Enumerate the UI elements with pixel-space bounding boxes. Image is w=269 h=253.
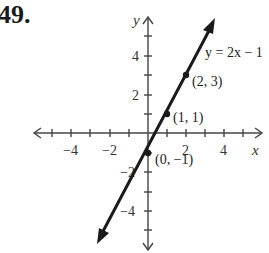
line-top-arrow-icon: [203, 18, 215, 34]
coordinate-plane: −4 −2 2 4 x 4 2 −2 −4 y y = 2x − 1 (2, 3…: [0, 0, 269, 253]
x-tick-label-m4: −4: [63, 143, 78, 158]
x-tick-label-m2: −2: [102, 143, 117, 158]
point-1-1: [164, 111, 170, 117]
point-label-2-3: (2, 3): [192, 74, 223, 90]
line-bottom-arrow-icon: [97, 228, 109, 244]
point-2-3: [183, 72, 189, 78]
y-tick-label-p4: 4: [132, 49, 139, 64]
equation-label: y = 2x − 1: [205, 45, 263, 60]
y-tick-label-m4: −4: [120, 204, 135, 219]
point-label-1-1: (1, 1): [173, 110, 204, 126]
point-label-0-neg1: (0, −1): [155, 152, 194, 168]
x-tick-label-p4: 4: [220, 143, 227, 158]
line-series: [97, 18, 215, 244]
x-axis-label: x: [251, 142, 259, 158]
y-tick-label-p2: 2: [132, 88, 139, 103]
point-0-neg1: [145, 150, 151, 156]
y-axis-label: y: [131, 12, 140, 28]
